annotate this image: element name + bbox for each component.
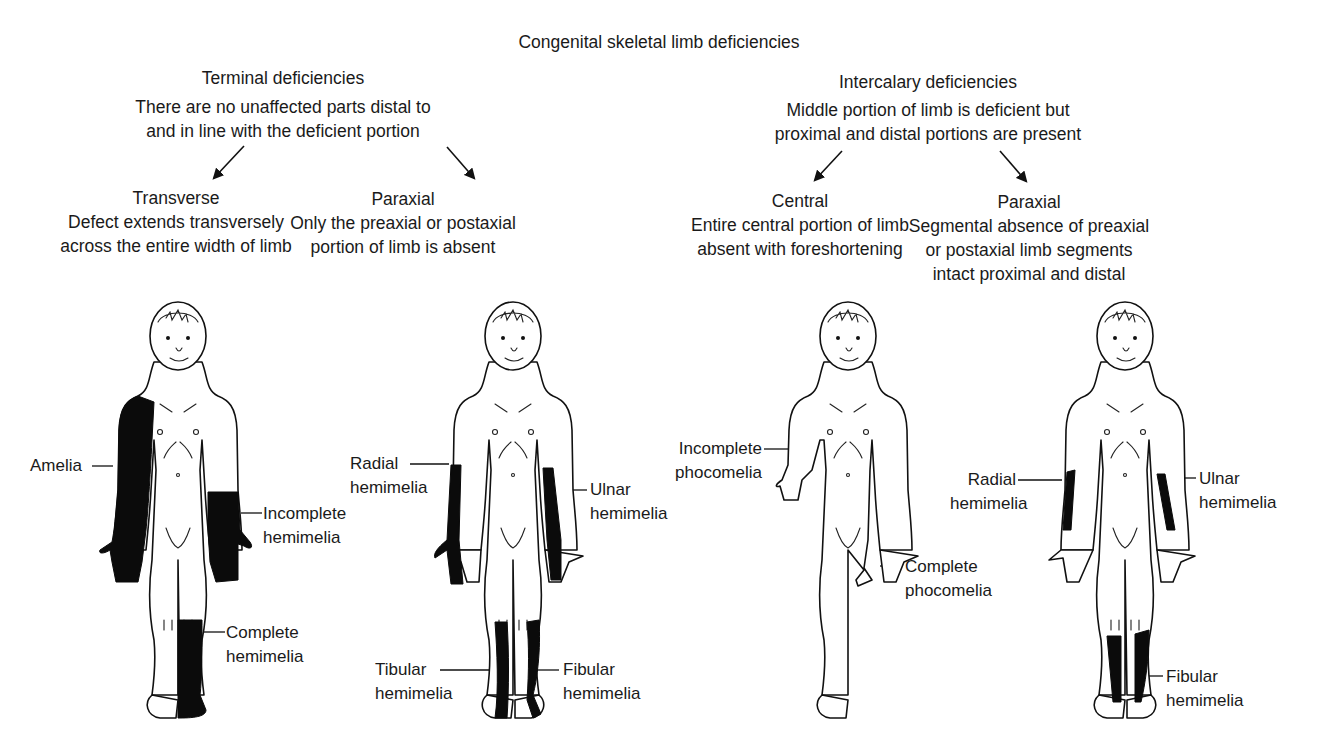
- transverse-description-line: across the entire width of limb: [60, 234, 292, 258]
- label-line: Incomplete: [263, 502, 346, 526]
- label-line: hemimelia: [590, 502, 667, 526]
- label-line: Fibular: [1166, 665, 1243, 689]
- label-line: Tibular: [375, 658, 452, 682]
- terminal-paraxial-description-line: portion of limb is absent: [290, 235, 516, 259]
- deficiency-complete-hemimelia: [178, 620, 206, 718]
- label-radial-hemimelia: Radialhemimelia: [350, 452, 427, 500]
- label-line: hemimelia: [350, 476, 427, 500]
- figure-central: [768, 300, 928, 720]
- label-line: Radial: [350, 452, 427, 476]
- figure-intercalary-paraxial: [1045, 300, 1205, 720]
- terminal-paraxial-description-line: Only the preaxial or postaxial: [290, 211, 516, 235]
- label-line: Ulnar: [1199, 467, 1276, 491]
- label-tibular-hemimelia: Tibularhemimelia: [375, 658, 452, 706]
- central-description-line: Entire central portion of limb: [691, 213, 909, 237]
- label-line: hemimelia: [1199, 491, 1276, 515]
- label-line: hemimelia: [563, 682, 640, 706]
- transverse-heading-text: Transverse: [60, 186, 292, 210]
- label-line: Amelia: [30, 454, 82, 478]
- label-line: Complete: [226, 621, 303, 645]
- label-line: hemimelia: [263, 526, 346, 550]
- arrow-to-intercalary-paraxial: [1000, 151, 1026, 181]
- terminal-heading-text: Terminal deficiencies: [135, 66, 430, 90]
- central-description-line: absent with foreshortening: [691, 237, 909, 261]
- deficiency-tibular-hemimelia: [495, 622, 509, 718]
- central-heading-text: Central: [691, 189, 909, 213]
- intercalary-description-line: Middle portion of limb is deficient but: [775, 98, 1081, 122]
- label-line: Incomplete: [662, 437, 762, 461]
- label-ulnar-hemimelia: Ulnarhemimelia: [590, 478, 667, 526]
- intercalary-paraxial-description-line: or postaxial limb segments: [909, 238, 1149, 262]
- label-line: hemimelia: [226, 645, 303, 669]
- label-line: hemimelia: [950, 492, 1016, 516]
- transverse-description-line: Defect extends transversely: [60, 210, 292, 234]
- body-outline: [776, 302, 918, 718]
- label-line: Fibular: [563, 658, 640, 682]
- deficiency-amelia: [100, 396, 154, 582]
- label-line: Complete: [905, 555, 992, 579]
- diagram-title: Congenital skeletal limb deficiencies: [518, 30, 799, 54]
- figure-terminal-paraxial: [433, 300, 593, 720]
- body-outline: [449, 302, 583, 718]
- label-line: Radial: [950, 468, 1016, 492]
- label-line: hemimelia: [1166, 689, 1243, 713]
- label-complete-phocomelia: Completephocomelia: [905, 555, 992, 603]
- intercalary-paraxial-heading: Paraxial Segmental absence of preaxial o…: [909, 190, 1149, 286]
- label-complete-hemimelia: Completehemimelia: [226, 621, 303, 669]
- label-line: hemimelia: [375, 682, 452, 706]
- terminal-description-line: There are no unaffected parts distal to: [135, 95, 430, 119]
- intercalary-paraxial-description-line: intact proximal and distal: [909, 262, 1149, 286]
- label-fibular-hemimelia-intercalary: Fibularhemimelia: [1166, 665, 1243, 713]
- arrow-to-central: [815, 151, 842, 180]
- deficiency-radial-hemimelia: [435, 465, 464, 584]
- intercalary-description-line: proximal and distal portions are present: [775, 122, 1081, 146]
- label-line: Ulnar: [590, 478, 667, 502]
- label-incomplete-hemimelia: Incompletehemimelia: [263, 502, 346, 550]
- intercalary-heading-text: Intercalary deficiencies: [775, 70, 1081, 94]
- label-amelia: Amelia: [30, 454, 82, 478]
- intercalary-paraxial-heading-text: Paraxial: [909, 190, 1149, 214]
- terminal-heading: Terminal deficiencies There are no unaff…: [135, 66, 430, 143]
- terminal-description-line: and in line with the deficient portion: [135, 119, 430, 143]
- central-heading: Central Entire central portion of limb a…: [691, 189, 909, 261]
- arrow-to-transverse: [214, 146, 244, 178]
- transverse-heading: Transverse Defect extends transversely a…: [60, 186, 292, 258]
- deficiency-incomplete-hemimelia: [208, 492, 252, 582]
- label-line: phocomelia: [662, 461, 762, 485]
- label-fibular-hemimelia: Fibularhemimelia: [563, 658, 640, 706]
- terminal-paraxial-heading-text: Paraxial: [290, 187, 516, 211]
- arrow-to-terminal-paraxial: [447, 147, 474, 178]
- arrows: [214, 146, 1026, 181]
- label-incomplete-phocomelia: Incompletephocomelia: [662, 437, 762, 485]
- intercalary-heading: Intercalary deficiencies Middle portion …: [775, 70, 1081, 146]
- label-ulnar-hemimelia-intercalary: Ulnarhemimelia: [1199, 467, 1276, 515]
- terminal-paraxial-heading: Paraxial Only the preaxial or postaxial …: [290, 187, 516, 259]
- label-radial-hemimelia-intercalary: Radialhemimelia: [950, 468, 1016, 516]
- label-line: phocomelia: [905, 579, 992, 603]
- intercalary-paraxial-description-line: Segmental absence of preaxial: [909, 214, 1149, 238]
